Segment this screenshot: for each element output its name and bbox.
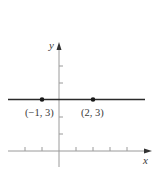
y-axis-arrow-icon — [57, 42, 62, 50]
point-2-3 — [91, 97, 96, 102]
y-axis-label: y — [48, 39, 54, 51]
point2-label: (2, 3) — [81, 107, 104, 119]
x-axis-label: x — [142, 154, 148, 166]
x-axis-arrow-icon — [144, 149, 152, 154]
x-ticks — [25, 147, 127, 151]
graph: y x (−1, 3) (2, 3) — [0, 0, 158, 181]
point-neg1-3 — [40, 97, 45, 102]
point1-label: (−1, 3) — [25, 107, 54, 119]
